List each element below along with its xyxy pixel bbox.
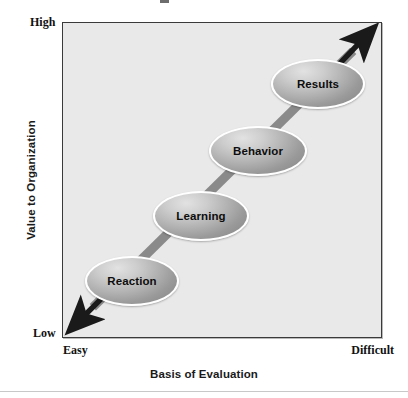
node-reaction[interactable]: Reaction — [85, 256, 179, 306]
footer-divider — [0, 391, 408, 392]
x-axis-title: Basis of Evaluation — [0, 368, 408, 380]
x-axis-tick-easy: Easy — [63, 343, 88, 358]
node-label-results: Results — [297, 78, 339, 90]
y-axis-tick-low: Low — [33, 326, 56, 341]
node-results[interactable]: Results — [271, 59, 365, 109]
cropped-title-fragment — [160, 0, 169, 3]
evaluation-model-figure: High Low Value to Organization Easy Diff… — [0, 0, 408, 398]
node-behavior[interactable]: Behavior — [209, 126, 307, 176]
node-label-behavior: Behavior — [233, 145, 283, 157]
node-learning[interactable]: Learning — [153, 191, 249, 241]
plot-area: Reaction Learning Behavior Results — [62, 22, 382, 338]
y-axis-title: Value to Organization — [25, 100, 37, 260]
node-label-reaction: Reaction — [107, 275, 156, 287]
node-label-learning: Learning — [176, 210, 225, 222]
y-axis-tick-high: High — [30, 15, 55, 30]
x-axis-tick-difficult: Difficult — [351, 343, 394, 358]
